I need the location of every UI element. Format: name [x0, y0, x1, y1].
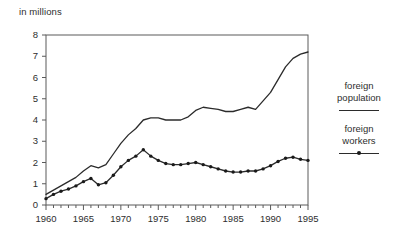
x-tick-label: 1970	[101, 213, 141, 224]
legend-label-foreign-workers: foreign workers	[322, 123, 396, 146]
data-series	[44, 52, 309, 200]
chart-figure: in millions 012345678 196019651970197519…	[0, 0, 397, 245]
x-tick-label: 1995	[288, 213, 328, 224]
y-tick-label: 6	[20, 72, 38, 83]
legend-label-foreign-population: foreign population	[322, 80, 396, 103]
legend-line-sample	[339, 110, 379, 111]
x-tick-label: 1980	[176, 213, 216, 224]
y-tick-label: 3	[20, 135, 38, 146]
y-tick-label: 4	[20, 114, 38, 125]
y-tick-label: 2	[20, 157, 38, 168]
x-tick-label: 1965	[63, 213, 103, 224]
x-tick-label: 1985	[213, 213, 253, 224]
chart-legend: foreign population foreign workers	[322, 80, 396, 166]
y-tick-label: 8	[20, 29, 38, 40]
tick-marks	[42, 35, 308, 210]
y-tick-label: 5	[20, 93, 38, 104]
x-tick-label: 1990	[251, 213, 291, 224]
y-tick-label: 0	[20, 199, 38, 210]
y-tick-label: 7	[20, 50, 38, 61]
legend-entry-foreign-workers: foreign workers	[322, 123, 396, 158]
legend-dot-marker-icon	[357, 151, 361, 155]
x-tick-label: 1960	[26, 213, 66, 224]
y-tick-label: 1	[20, 178, 38, 189]
legend-entry-foreign-population: foreign population	[322, 80, 396, 115]
legend-swatch-dot-line	[339, 149, 379, 158]
x-tick-label: 1975	[138, 213, 178, 224]
legend-swatch-solid-line	[339, 106, 379, 115]
